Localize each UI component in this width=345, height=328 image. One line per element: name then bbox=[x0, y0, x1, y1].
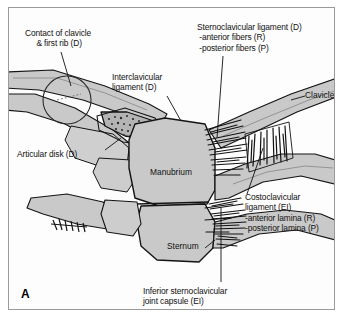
manubrium-bone bbox=[129, 118, 215, 206]
label-sternoclavicular-ligament: Sternoclavicular ligament (D) -anterior … bbox=[197, 22, 302, 53]
panel-letter: A bbox=[21, 287, 30, 301]
right-clavicle-bone bbox=[209, 78, 334, 148]
leader-interclavicular bbox=[167, 96, 181, 121]
figure-root: Contact of clavicle & first rib (D) Inte… bbox=[0, 0, 345, 328]
label-clavicle: Clavicle bbox=[305, 90, 334, 100]
sternum-bone bbox=[137, 204, 215, 262]
left-lower-costal-cartilage bbox=[101, 200, 141, 236]
label-interclavicular-ligament: Interclavicular ligament (D) bbox=[112, 72, 162, 93]
label-contact-clavicle-first-rib: Contact of clavicle & first rib (D) bbox=[25, 28, 91, 49]
label-sternum: Sternum bbox=[167, 241, 199, 251]
label-inferior-joint-capsule: Inferior sternoclavicular joint capsule … bbox=[143, 286, 227, 307]
figure-frame: Contact of clavicle & first rib (D) Inte… bbox=[8, 7, 335, 310]
label-costoclavicular-ligament: Costoclavicular ligament (EI) -anterior … bbox=[245, 192, 319, 234]
label-articular-disk: Articular disk (D) bbox=[17, 149, 77, 159]
label-manubrium: Manubrium bbox=[150, 167, 192, 177]
